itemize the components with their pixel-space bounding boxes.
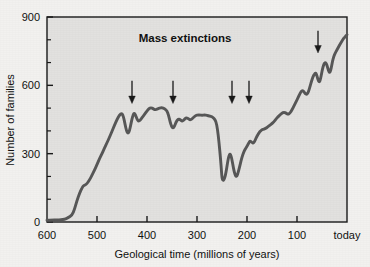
- plot-area-background: [47, 17, 347, 222]
- y-axis-label: Number of families: [4, 74, 16, 166]
- chart-title: Mass extinctions: [139, 32, 232, 44]
- x-axis-label: Geological time (millions of years): [114, 248, 279, 260]
- mass-extinctions-line-chart: 0300600900 600500400300200100today Mass …: [0, 0, 370, 267]
- x-tick-label: 100: [288, 229, 306, 241]
- y-tick-label: 900: [22, 11, 40, 23]
- y-tick-label: 0: [34, 216, 40, 228]
- chart-figure: 0300600900 600500400300200100today Mass …: [0, 0, 370, 267]
- x-tick-label: 400: [138, 229, 156, 241]
- x-tick-label: 300: [188, 229, 206, 241]
- y-tick-label: 600: [22, 79, 40, 91]
- x-tick-label: 200: [238, 229, 256, 241]
- y-tick-label: 300: [22, 148, 40, 160]
- x-tick-label: 500: [88, 229, 106, 241]
- x-tick-label: 600: [38, 229, 56, 241]
- x-tick-label: today: [334, 229, 361, 241]
